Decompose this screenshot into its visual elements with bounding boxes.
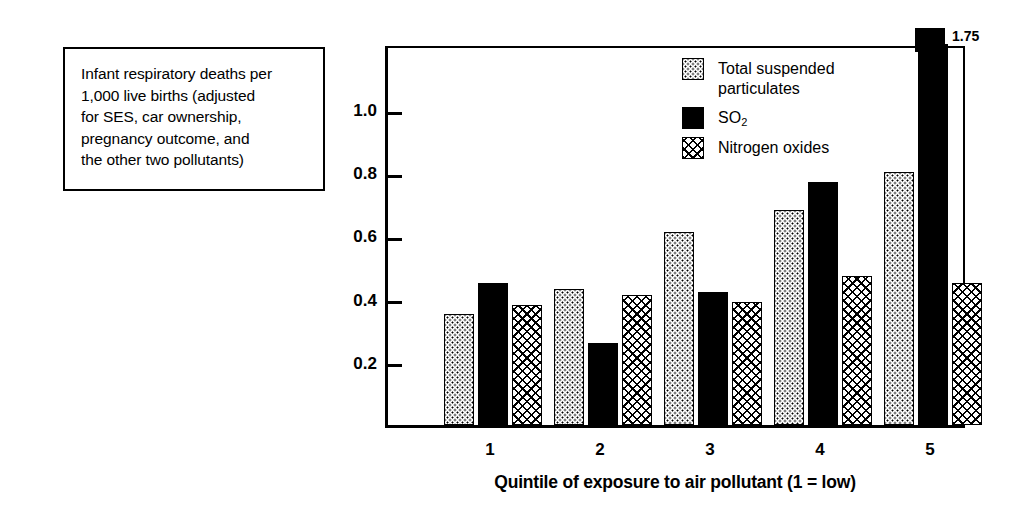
- bar-tsp-quintile-5: [884, 172, 914, 425]
- bar-so2-quintile-4: [808, 182, 838, 425]
- bar-tsp-quintile-2: [554, 289, 584, 425]
- legend-item-so2: SO2: [682, 107, 912, 129]
- bar-nox-quintile-5: [952, 283, 982, 425]
- bar-nox-quintile-4: [842, 276, 872, 425]
- bar-tsp-quintile-3: [664, 232, 694, 425]
- bar-tsp-quintile-1: [444, 314, 474, 425]
- bar-nox-quintile-2: [622, 295, 652, 425]
- bar-so2-quintile-2: [588, 343, 618, 425]
- legend-item-nox: Nitrogen oxides: [682, 137, 912, 159]
- x-axis-tick-label-2: 2: [580, 440, 620, 460]
- y-axis-tick: [388, 301, 402, 304]
- legend-swatch-nox: [682, 137, 704, 159]
- legend-label-so2: SO2: [718, 107, 747, 129]
- y-axis-tick: [388, 238, 402, 241]
- bar-so2-quintile-3: [698, 292, 728, 425]
- y-axis-tick-label: 0.8: [331, 165, 377, 182]
- caption-text: Infant respiratory deaths per 1,000 live…: [81, 63, 311, 171]
- x-axis-title: Quintile of exposure to air pollutant (1…: [385, 472, 965, 492]
- bar-so2-quintile-5: [918, 44, 948, 425]
- bar-tsp-quintile-4: [774, 210, 804, 425]
- x-axis-tick-label-1: 1: [470, 440, 510, 460]
- legend-swatch-tsp: [682, 58, 704, 80]
- legend-item-tsp: Total suspended particulates: [682, 58, 912, 99]
- legend-label-subscript: 2: [741, 116, 747, 128]
- y-axis-tick-label: 0.4: [331, 292, 377, 309]
- caption-box: Infant respiratory deaths per 1,000 live…: [63, 47, 325, 191]
- x-axis-tick-labels: 12345: [385, 440, 965, 464]
- x-axis-tick-label-3: 3: [690, 440, 730, 460]
- x-axis-tick-label-5: 5: [910, 440, 950, 460]
- bar-so2-quintile-1: [478, 283, 508, 425]
- y-axis-tick-label: 0.2: [331, 355, 377, 372]
- bar-so2-quintile-5-overflow: [915, 28, 945, 52]
- annotation-1-75: 1.75: [952, 29, 979, 43]
- y-axis-tick: [388, 175, 402, 178]
- y-axis-labels: 0.20.40.60.81.0: [325, 46, 377, 428]
- x-axis-tick-label-4: 4: [800, 440, 840, 460]
- chart-legend: Total suspended particulatesSO2Nitrogen …: [682, 58, 912, 167]
- bar-nox-quintile-1: [512, 305, 542, 425]
- y-axis-tick: [388, 364, 402, 367]
- legend-label-nox: Nitrogen oxides: [718, 137, 829, 158]
- y-axis-tick-label: 0.6: [331, 228, 377, 245]
- y-axis-tick-label: 1.0: [331, 102, 377, 119]
- y-axis-tick: [388, 112, 402, 115]
- legend-swatch-so2: [682, 107, 704, 129]
- legend-label-tsp: Total suspended particulates: [718, 58, 835, 99]
- bar-nox-quintile-3: [732, 302, 762, 425]
